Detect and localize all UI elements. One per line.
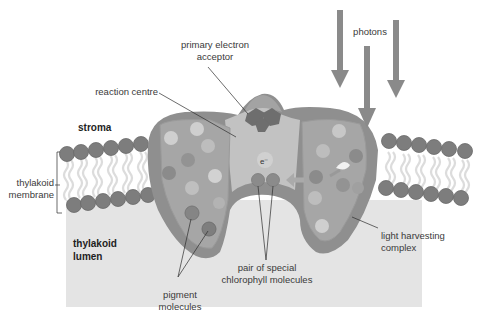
stroma-label: stroma bbox=[78, 122, 111, 134]
electron-label: e⁻ bbox=[260, 157, 268, 166]
thylakoid-membrane-label: thylakoid membrane bbox=[0, 177, 54, 201]
reaction-centre-label: reaction centre bbox=[80, 86, 158, 98]
primary-acceptor-line1: primary electron bbox=[170, 39, 260, 51]
lumen-line1: thylakoid bbox=[73, 237, 117, 250]
pigment-molecules-label: pigment molecules bbox=[150, 289, 210, 313]
photons-label: photons bbox=[348, 26, 392, 38]
special-pair-label: pair of special chlorophyll molecules bbox=[212, 262, 322, 286]
thylakoid-lumen-label: thylakoid lumen bbox=[73, 237, 117, 263]
lumen-line2: lumen bbox=[73, 250, 117, 263]
special-pair-line2: chlorophyll molecules bbox=[212, 274, 322, 286]
membrane-line1: thylakoid bbox=[0, 177, 54, 189]
light-harvesting-line1: light harvesting bbox=[381, 230, 445, 242]
primary-electron-acceptor-label: primary electron acceptor bbox=[170, 39, 260, 63]
pigment-line2: molecules bbox=[150, 301, 210, 313]
primary-acceptor-line2: acceptor bbox=[170, 51, 260, 63]
membrane-line2: membrane bbox=[0, 189, 54, 201]
pigment-line1: pigment bbox=[150, 289, 210, 301]
light-harvesting-complex-label: light harvesting complex bbox=[381, 230, 445, 254]
light-harvesting-line2: complex bbox=[381, 242, 445, 254]
special-pair-line1: pair of special bbox=[212, 262, 322, 274]
